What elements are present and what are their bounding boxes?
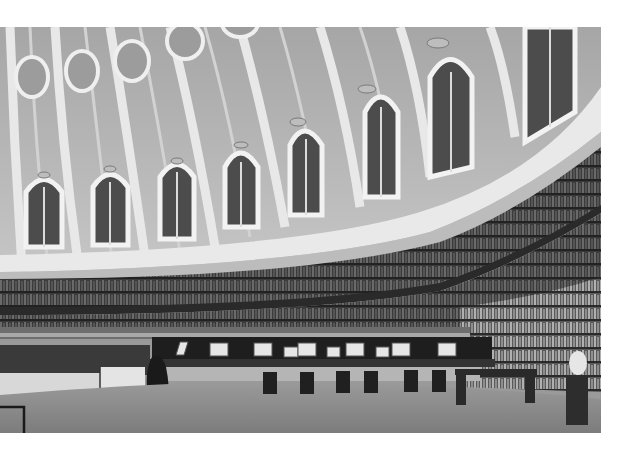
- bust-pedestal: [566, 351, 588, 425]
- library-photo: [0, 27, 601, 433]
